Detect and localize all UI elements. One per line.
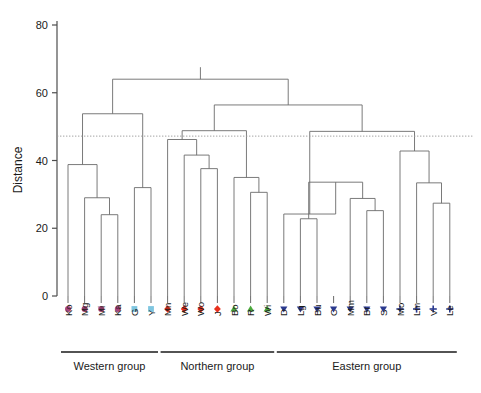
dendrogram-link xyxy=(400,151,429,296)
y-axis-title: Distance xyxy=(11,146,25,193)
dendrogram-link xyxy=(300,219,317,296)
leaf-label: Mo xyxy=(395,303,406,316)
dendrogram-link xyxy=(83,114,143,188)
leaf-label: Mm xyxy=(345,300,356,316)
leaf-label: Ka xyxy=(112,304,123,316)
dendrogram-link xyxy=(214,105,362,131)
group-label: Western group xyxy=(74,360,146,372)
dendrogram-link xyxy=(367,211,384,296)
leaf-label: Mg xyxy=(79,303,90,316)
dendrogram-link xyxy=(251,192,268,296)
leaf-label: D xyxy=(278,309,289,316)
tree-layer xyxy=(68,67,450,296)
leaf-label: R xyxy=(245,309,256,316)
leaf-label: Mn xyxy=(162,303,173,316)
dendrogram-link xyxy=(68,165,97,296)
dendrogram-link xyxy=(433,203,450,296)
leaf-label: Le xyxy=(444,305,455,316)
dendrogram-plot: 020406080Distance KoMgMiKaGYMnWeWoJBoRWi… xyxy=(0,0,481,393)
leaf-label: Wi xyxy=(262,305,273,316)
dendrogram-link xyxy=(85,198,110,296)
leaf-label: Ko xyxy=(63,304,74,316)
dendrogram-link xyxy=(417,183,442,296)
group-label: Eastern group xyxy=(332,360,401,372)
dendrogram-link xyxy=(310,131,415,214)
dendrogram-link xyxy=(134,188,151,296)
leaf-label: Br xyxy=(361,307,372,317)
y-axis-tick-label: 80 xyxy=(36,19,48,31)
leaf-label: C xyxy=(328,309,339,316)
leaf-label: Y xyxy=(146,309,157,316)
leaf-label: G xyxy=(129,309,140,316)
leaf-label: S xyxy=(378,310,389,316)
axis-layer: 020406080Distance xyxy=(11,19,57,302)
leaf-label: Lg xyxy=(295,305,306,316)
dendrogram-link xyxy=(113,79,289,114)
y-axis-tick-label: 20 xyxy=(36,222,48,234)
leaf-label: Bu xyxy=(312,304,323,316)
y-axis-tick-label: 0 xyxy=(42,290,48,302)
leaf-label: Bo xyxy=(229,304,240,316)
leaf-layer: KoMgMiKaGYMnWeWoJBoRWiDLgBuCMmBrSMoLmVLe xyxy=(63,296,456,316)
leaf-label: Wo xyxy=(195,302,206,316)
dendrogram-link xyxy=(350,198,375,296)
leaf-label: Mi xyxy=(96,306,107,316)
dendrogram-link xyxy=(234,177,259,296)
dendrogram-link xyxy=(168,139,197,296)
dendrogram-link xyxy=(201,169,218,296)
dendrogram-figure: 020406080Distance KoMgMiKaGYMnWeWoJBoRWi… xyxy=(0,0,481,393)
y-axis-tick-label: 60 xyxy=(36,87,48,99)
group-layer: Western groupNorthern groupEastern group xyxy=(61,352,457,372)
dendrogram-link xyxy=(101,215,118,296)
group-label: Northern group xyxy=(180,360,254,372)
leaf-label: J xyxy=(212,311,223,316)
dendrogram-link xyxy=(182,131,246,178)
leaf-label: Lm xyxy=(411,303,422,316)
leaf-label: We xyxy=(179,302,190,316)
leaf-label: V xyxy=(428,309,439,316)
y-axis-tick-label: 40 xyxy=(36,155,48,167)
dendrogram-link xyxy=(184,155,209,296)
